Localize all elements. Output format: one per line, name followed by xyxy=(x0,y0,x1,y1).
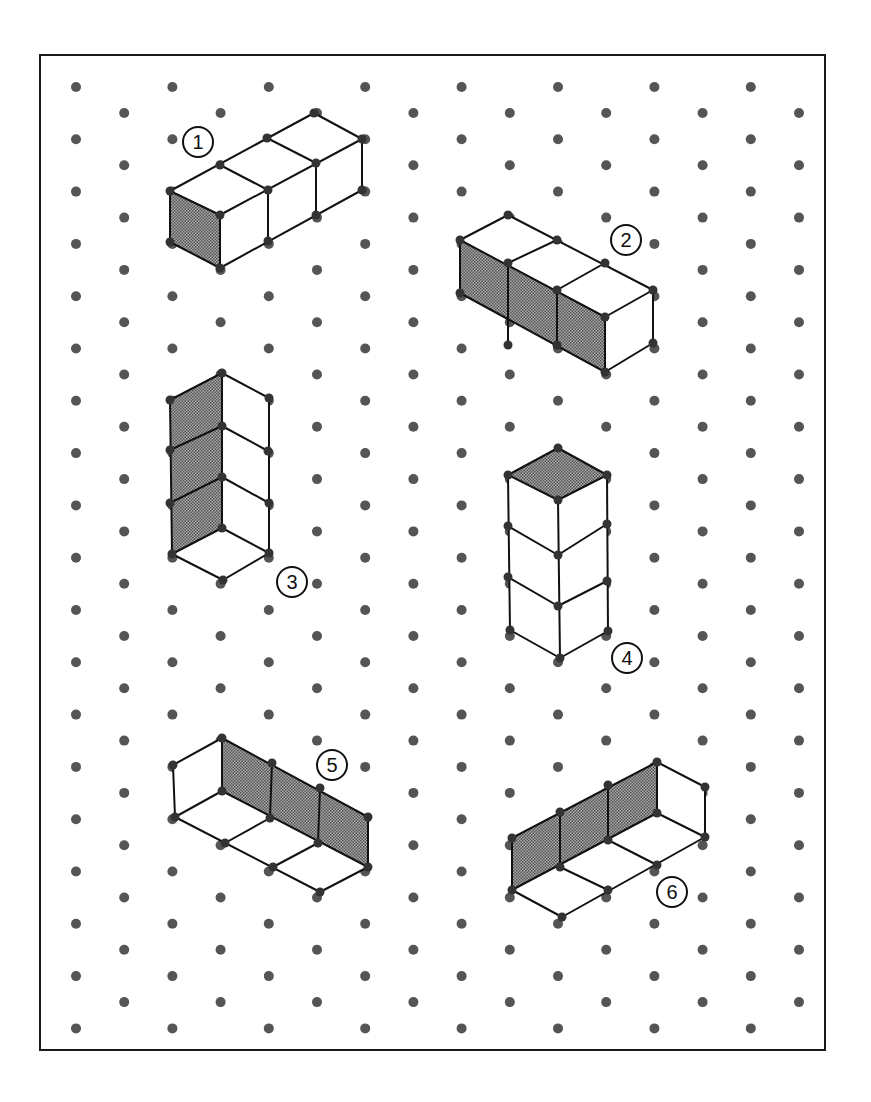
grid-dot xyxy=(553,710,563,720)
grid-dot xyxy=(698,526,708,536)
grid-dot xyxy=(119,945,129,955)
grid-dot xyxy=(119,683,129,693)
vertex-dot xyxy=(504,471,513,480)
grid-dot xyxy=(746,396,756,406)
grid-dot xyxy=(264,291,274,301)
grid-dot xyxy=(553,971,563,981)
vertex-dot xyxy=(649,286,658,295)
vertex-dot xyxy=(312,211,321,220)
grid-dot xyxy=(167,605,177,615)
grid-dot xyxy=(71,82,81,92)
vertex-dot xyxy=(556,863,565,872)
grid-dot xyxy=(601,683,611,693)
vertex-dot xyxy=(316,784,325,793)
grid-dot xyxy=(649,134,659,144)
grid-dot xyxy=(698,579,708,589)
grid-dot xyxy=(71,134,81,144)
vertex-dot xyxy=(312,159,321,168)
grid-dot xyxy=(505,945,515,955)
grid-dot xyxy=(746,710,756,720)
vertex-dot xyxy=(364,863,373,872)
grid-dot xyxy=(649,500,659,510)
grid-dot xyxy=(167,344,177,354)
vertex-dot xyxy=(216,211,225,220)
grid-dot xyxy=(505,160,515,170)
vertex-dot xyxy=(266,814,275,823)
grid-dot xyxy=(457,657,467,667)
grid-dot xyxy=(698,108,708,118)
grid-dot xyxy=(794,265,804,275)
grid-dot xyxy=(71,344,81,354)
vertex-dot xyxy=(554,444,563,453)
grid-dot xyxy=(698,683,708,693)
grid-dot xyxy=(71,1023,81,1033)
vertex-dot xyxy=(264,186,273,195)
grid-dot xyxy=(216,317,226,327)
grid-dot xyxy=(457,396,467,406)
grid-dot xyxy=(360,710,370,720)
grid-dot xyxy=(649,657,659,667)
vertex-dot xyxy=(554,551,563,560)
grid-dot xyxy=(553,82,563,92)
grid-dot xyxy=(312,997,322,1007)
grid-dot xyxy=(360,657,370,667)
grid-dot xyxy=(408,108,418,118)
grid-dot xyxy=(264,971,274,981)
grid-dot xyxy=(649,553,659,563)
figure-number: 1 xyxy=(192,131,203,153)
vertex-dot xyxy=(553,236,562,245)
grid-dot xyxy=(746,657,756,667)
grid-dot xyxy=(794,683,804,693)
vertex-dot xyxy=(508,834,517,843)
grid-dot xyxy=(746,814,756,824)
grid-dot xyxy=(457,82,467,92)
vertex-dot xyxy=(554,602,563,611)
vertex-dot xyxy=(504,259,513,268)
vertex-dot xyxy=(653,758,662,767)
grid-dot xyxy=(553,134,563,144)
vertex-dot xyxy=(601,259,610,268)
grid-dot xyxy=(698,736,708,746)
grid-dot xyxy=(167,710,177,720)
vertex-dot xyxy=(264,447,273,456)
grid-dot xyxy=(794,840,804,850)
vertex-dot xyxy=(316,888,325,897)
grid-dot xyxy=(119,160,129,170)
grid-dot xyxy=(408,213,418,223)
vertex-dot xyxy=(701,783,710,792)
grid-dot xyxy=(746,553,756,563)
grid-dot xyxy=(119,997,129,1007)
vertex-dot xyxy=(218,524,227,533)
grid-dot xyxy=(457,500,467,510)
vertex-dot xyxy=(506,626,515,635)
grid-dot xyxy=(746,344,756,354)
grid-dot xyxy=(601,422,611,432)
vertex-dot xyxy=(508,886,517,895)
grid-dot xyxy=(794,108,804,118)
grid-dot xyxy=(119,579,129,589)
grid-dot xyxy=(457,344,467,354)
figure-label-3: 3 xyxy=(277,567,307,597)
grid-dot xyxy=(71,500,81,510)
grid-dot xyxy=(167,1023,177,1033)
grid-dot xyxy=(360,919,370,929)
grid-dot xyxy=(312,317,322,327)
grid-dot xyxy=(408,317,418,327)
grid-dot xyxy=(601,160,611,170)
grid-dot xyxy=(601,945,611,955)
grid-dot xyxy=(71,239,81,249)
vertex-dot xyxy=(554,496,563,505)
grid-dot xyxy=(794,370,804,380)
figure-number: 4 xyxy=(621,647,632,669)
grid-dot xyxy=(505,736,515,746)
grid-dot xyxy=(408,893,418,903)
vertex-dot xyxy=(219,576,228,585)
grid-dot xyxy=(794,526,804,536)
grid-dot xyxy=(457,134,467,144)
vertex-dot xyxy=(168,550,177,559)
grid-dot xyxy=(649,187,659,197)
grid-dot xyxy=(408,631,418,641)
grid-dot xyxy=(360,500,370,510)
white-face xyxy=(222,373,269,553)
grid-dot xyxy=(71,291,81,301)
